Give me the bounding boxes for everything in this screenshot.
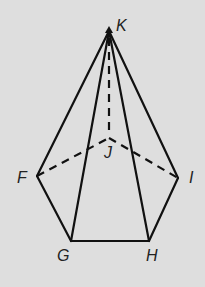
- edge-KG: [71, 31, 109, 241]
- edge-KH: [109, 31, 149, 241]
- pyramid-diagram: K J F G H I: [0, 0, 205, 287]
- vertex-label-j: J: [104, 145, 112, 161]
- edge-FG: [37, 176, 71, 241]
- edge-KF: [37, 31, 109, 176]
- vertex-label-f: F: [17, 170, 27, 186]
- vertex-label-h: H: [146, 248, 158, 264]
- apex-marker: [105, 26, 113, 33]
- vertex-label-k: K: [116, 18, 127, 34]
- vertex-label-i: I: [189, 170, 193, 186]
- pyramid-figure: [0, 0, 205, 287]
- vertex-label-g: G: [57, 248, 69, 264]
- hidden-edge-FJ: [37, 138, 109, 176]
- edge-KI: [109, 31, 178, 178]
- edge-HI: [149, 178, 178, 241]
